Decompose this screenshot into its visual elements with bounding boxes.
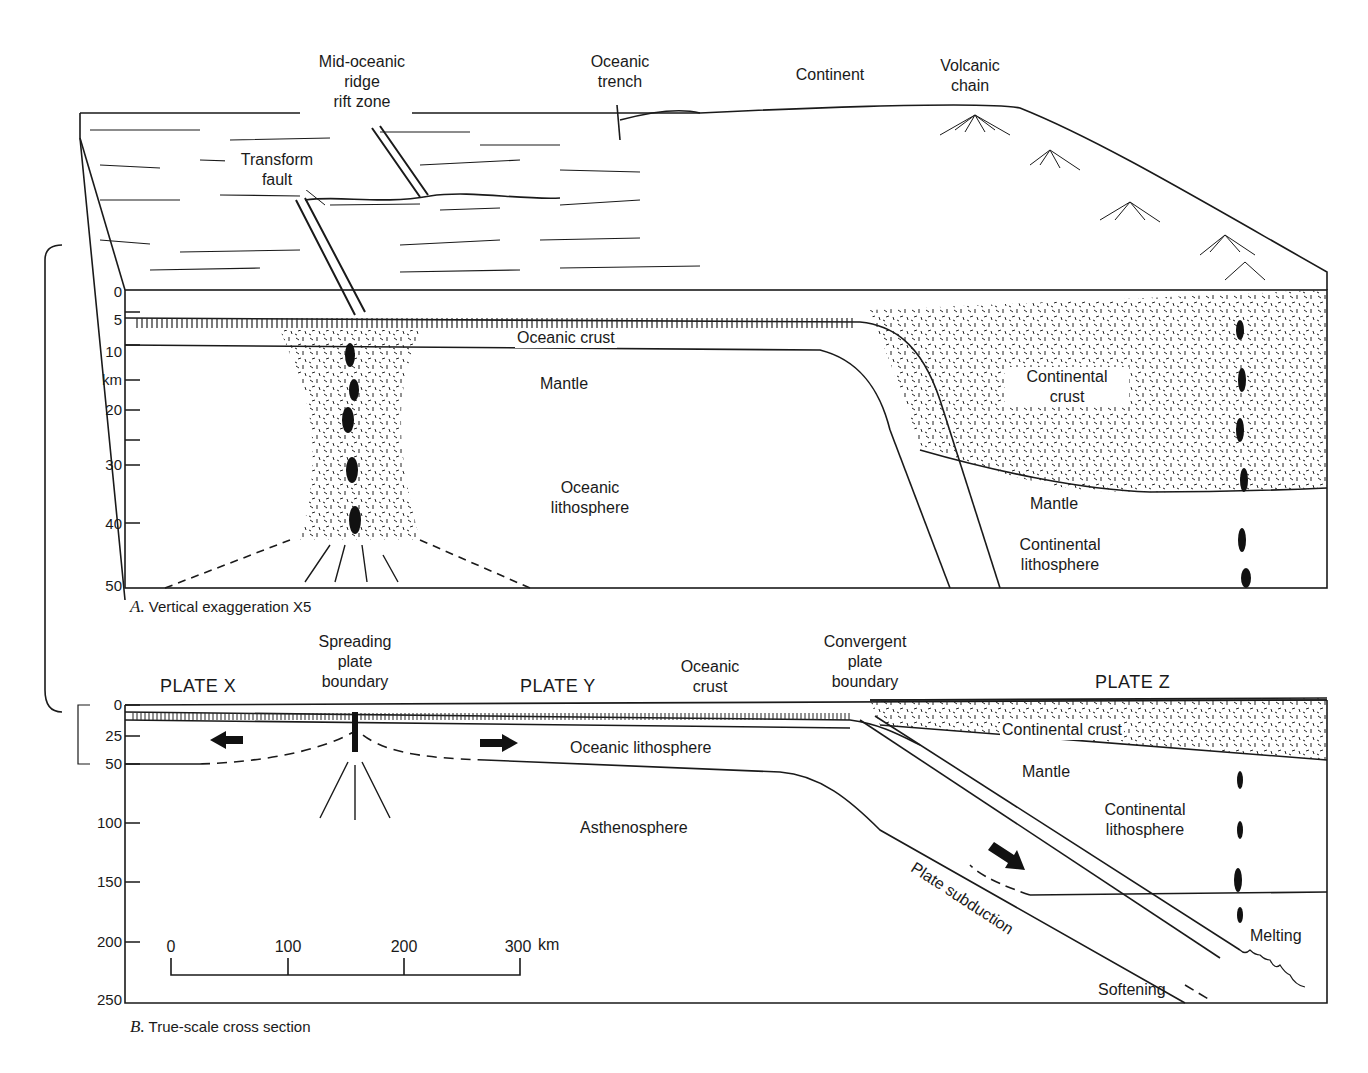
scale-unit: km bbox=[538, 935, 559, 955]
diagram-artwork bbox=[0, 0, 1368, 1073]
label-continental-crust-b: Continental crust bbox=[1000, 720, 1124, 740]
label-melting: Melting bbox=[1250, 926, 1302, 946]
arrow-left-plate-x bbox=[210, 731, 243, 749]
tick-b-100: 100 bbox=[82, 815, 122, 831]
arrow-right-plate-y bbox=[480, 734, 518, 752]
tick-b-150: 150 bbox=[82, 874, 122, 890]
label-line: lithosphere bbox=[1090, 820, 1200, 840]
scale-tick-200: 200 bbox=[386, 937, 422, 957]
label-line: crust bbox=[1007, 387, 1127, 407]
label-mantle-right-a: Mantle bbox=[1030, 494, 1078, 514]
tick-a-40: 40 bbox=[82, 516, 122, 532]
tick-a-0: 0 bbox=[82, 284, 122, 300]
label-line: crust bbox=[670, 677, 750, 697]
scale-tick-100: 100 bbox=[270, 937, 306, 957]
tick-b-25: 25 bbox=[82, 728, 122, 744]
label-continental-lithosphere-a: Continental lithosphere bbox=[1000, 535, 1120, 575]
label-oceanic-lithosphere-b: Oceanic lithosphere bbox=[570, 738, 711, 758]
axis-unit-km: km bbox=[82, 372, 122, 388]
label-transform-fault: Transform fault bbox=[225, 150, 329, 190]
label-line: Continental bbox=[1000, 535, 1120, 555]
arrow-subduction bbox=[988, 842, 1025, 870]
label-line: boundary bbox=[305, 672, 405, 692]
label-oceanic-crust-b: Oceanic crust bbox=[670, 657, 750, 697]
oceanic-crust-hatch-a bbox=[135, 318, 855, 328]
tick-b-250: 250 bbox=[82, 992, 122, 1008]
plate-tectonics-figure: Mid-oceanic ridge rift zone Oceanic tren… bbox=[0, 0, 1368, 1073]
label-line: Convergent bbox=[810, 632, 920, 652]
caption-text: Vertical exaggeration X5 bbox=[149, 598, 312, 615]
label-volcanic-chain: Volcanic chain bbox=[915, 56, 1025, 96]
caption-text: True-scale cross section bbox=[149, 1018, 311, 1035]
label-line: Oceanic bbox=[570, 52, 670, 72]
caption-letter: B. bbox=[130, 1017, 145, 1036]
label-line: boundary bbox=[810, 672, 920, 692]
label-plate-z: PLATE Z bbox=[1095, 672, 1170, 692]
label-line: Continental bbox=[1007, 367, 1127, 387]
label-line: Continental bbox=[1090, 800, 1200, 820]
label-line: Volcanic bbox=[915, 56, 1025, 76]
oceanic-crust-hatch-b bbox=[130, 713, 850, 720]
label-mid-oceanic-ridge: Mid-oceanic ridge rift zone bbox=[295, 52, 429, 112]
label-oceanic-lithosphere-a: Oceanic lithosphere bbox=[520, 478, 660, 518]
label-line: plate bbox=[305, 652, 405, 672]
label-line: fault bbox=[227, 170, 327, 190]
label-softening: Softening bbox=[1098, 980, 1166, 1000]
label-line: chain bbox=[915, 76, 1025, 96]
caption-panel-b: B. True-scale cross section bbox=[130, 1017, 311, 1037]
label-continent: Continent bbox=[770, 65, 890, 85]
label-line: lithosphere bbox=[1000, 555, 1120, 575]
caption-letter: A. bbox=[130, 597, 145, 616]
label-oceanic-trench: Oceanic trench bbox=[570, 52, 670, 92]
label-oceanic-crust-a: Oceanic crust bbox=[515, 328, 617, 348]
scale-tick-0: 0 bbox=[163, 937, 179, 957]
label-line: Spreading bbox=[305, 632, 405, 652]
label-continental-lithosphere-b: Continental lithosphere bbox=[1090, 800, 1200, 840]
label-convergent-plate-boundary: Convergent plate boundary bbox=[810, 632, 920, 692]
scale-tick-300: 300 bbox=[500, 937, 536, 957]
label-asthenosphere: Asthenosphere bbox=[580, 818, 688, 838]
tick-a-50: 50 bbox=[82, 578, 122, 594]
label-continental-crust-a: Continental crust bbox=[1005, 367, 1129, 407]
label-plate-x: PLATE X bbox=[160, 676, 236, 696]
label-mantle-b: Mantle bbox=[1022, 762, 1070, 782]
tick-b-50: 50 bbox=[82, 756, 122, 772]
caption-panel-a: A. Vertical exaggeration X5 bbox=[130, 597, 311, 617]
tick-a-30: 30 bbox=[82, 457, 122, 473]
label-line: Transform bbox=[227, 150, 327, 170]
label-line: plate bbox=[810, 652, 920, 672]
label-spreading-plate-boundary: Spreading plate boundary bbox=[305, 632, 405, 692]
tick-b-200: 200 bbox=[82, 934, 122, 950]
tick-a-5: 5 bbox=[82, 312, 122, 328]
tick-a-20: 20 bbox=[82, 402, 122, 418]
label-line: trench bbox=[570, 72, 670, 92]
label-plate-y: PLATE Y bbox=[520, 676, 596, 696]
label-line: Oceanic bbox=[520, 478, 660, 498]
label-line: Mid-oceanic bbox=[297, 52, 427, 72]
label-line: rift zone bbox=[297, 92, 427, 112]
label-line: ridge bbox=[297, 72, 427, 92]
label-line: lithosphere bbox=[520, 498, 660, 518]
tick-b-0: 0 bbox=[82, 697, 122, 713]
label-line: Oceanic bbox=[670, 657, 750, 677]
tick-a-10: 10 bbox=[82, 344, 122, 360]
label-mantle-a: Mantle bbox=[540, 374, 588, 394]
